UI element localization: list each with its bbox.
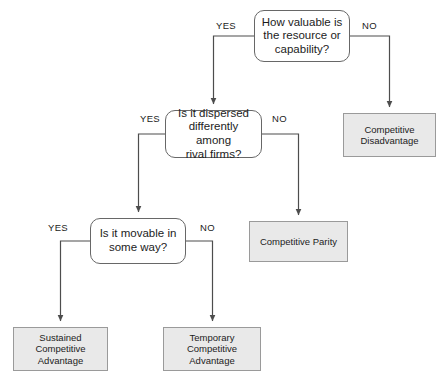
edge-label-valuable-yes: YES	[216, 20, 236, 31]
decision-node-how-valuable[interactable]: How valuable is the resource or capabili…	[254, 10, 350, 62]
edge-label-valuable-no: NO	[362, 20, 377, 31]
outcome-node-temporary-competitive-advantage[interactable]: Temporary Competitive Advantage	[163, 327, 261, 371]
outcome-node-competitive-parity-label: Competitive Parity	[256, 236, 341, 247]
outcome-node-sustained-competitive-advantage-label: Sustained Competitive Advantage	[31, 332, 89, 366]
edge-dispersed-yes	[139, 134, 166, 212]
edge-label-dispersed-no: NO	[272, 113, 287, 124]
edge-valuable-no	[350, 36, 390, 107]
edge-label-movable-no: NO	[200, 222, 215, 233]
flowchart-canvas: How valuable is the resource or capabili…	[0, 0, 447, 387]
outcome-node-competitive-disadvantage-label: Competitive Disadvantage	[356, 124, 422, 146]
edge-valuable-yes	[214, 36, 255, 104]
outcome-node-temporary-competitive-advantage-label: Temporary Competitive Advantage	[183, 332, 241, 366]
edge-dispersed-no	[262, 134, 299, 215]
decision-node-is-it-movable[interactable]: Is it movable in some way?	[90, 218, 186, 264]
decision-node-is-it-movable-label: Is it movable in some way?	[96, 227, 181, 254]
outcome-node-sustained-competitive-advantage[interactable]: Sustained Competitive Advantage	[13, 327, 108, 371]
decision-node-how-valuable-label: How valuable is the resource or capabili…	[258, 16, 347, 57]
edge-movable-yes	[61, 241, 91, 321]
decision-node-is-it-dispersed[interactable]: Is it dispersed differently among rival …	[165, 110, 262, 158]
edge-label-movable-yes: YES	[48, 222, 68, 233]
outcome-node-competitive-disadvantage[interactable]: Competitive Disadvantage	[343, 113, 436, 157]
decision-node-is-it-dispersed-label: Is it dispersed differently among rival …	[166, 107, 261, 161]
outcome-node-competitive-parity[interactable]: Competitive Parity	[249, 221, 348, 262]
edge-label-dispersed-yes: YES	[140, 113, 160, 124]
edge-movable-no	[186, 241, 213, 321]
